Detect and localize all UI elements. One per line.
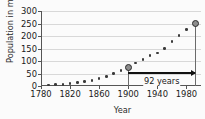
x-tick-label: 1900 [118,89,139,99]
data-point [62,83,65,86]
data-point [83,80,86,83]
data-point [156,52,159,55]
data-point [149,54,152,57]
x-axis-title: Year [40,105,205,115]
y-tick-label: 50 [26,69,37,79]
x-tick-label: 1860 [89,89,110,99]
data-point [47,84,50,87]
y-tick [38,74,41,75]
y-tick-label: 200 [21,31,37,41]
span-arrow [128,72,195,73]
highlighted-data-point [192,20,199,27]
y-tick-label: 100 [21,56,37,66]
span-label: 92 years [143,76,181,86]
data-point [134,62,137,65]
y-tick [38,24,41,25]
y-tick [38,11,41,12]
data-point [185,28,188,31]
data-point [54,83,57,86]
data-point [105,75,108,78]
data-point [112,72,115,75]
x-tick-label: 1820 [59,89,80,99]
highlighted-data-point [125,64,132,71]
data-point [91,79,94,82]
data-point [171,40,174,43]
data-point [142,58,145,61]
gridline [42,49,201,50]
data-point [120,69,123,72]
y-tick [38,61,41,62]
x-tick-label: 1980 [176,89,197,99]
gridline [42,24,201,25]
x-tick-label: 1780 [30,89,51,99]
y-tick-label: 300 [21,6,37,16]
y-tick [38,36,41,37]
y-tick [38,49,41,50]
y-axis-title: Population in millions [4,0,16,63]
y-tick-label: 150 [21,44,37,54]
data-point [163,47,166,50]
gridline [42,61,201,62]
gridline [42,74,201,75]
data-point [76,81,79,84]
y-tick-label: 250 [21,19,37,29]
gridline [42,11,201,12]
highlight-dropline [195,24,196,87]
data-point [98,77,101,80]
x-tick-label: 1940 [147,89,168,99]
plot-area: 050100150200250300 178018201860190019401… [41,11,201,86]
population-scatter-chart: Population in millions 05010015020025030… [0,0,205,119]
